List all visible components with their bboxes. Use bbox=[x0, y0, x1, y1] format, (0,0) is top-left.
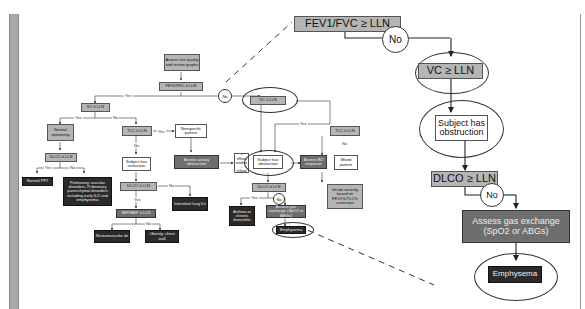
zoom-node-obstruction: Subject has obstruction bbox=[435, 115, 488, 141]
node-gas-exchange-small: Assess gas exchange (SpO2 or ABGs) bbox=[266, 205, 306, 218]
node-assess-bd: Assess BD response bbox=[300, 155, 327, 169]
label-yes-3: Yes bbox=[44, 165, 53, 170]
node-obesity: Obesity, chest wall bbox=[145, 230, 179, 243]
label-yes-2: Yes bbox=[74, 115, 83, 120]
node-dlco-obstruction: DLCO ≥ LLN bbox=[252, 183, 286, 192]
zoom-node-no-1: No bbox=[382, 26, 409, 53]
node-neuromuscular: Neuromuscular dz bbox=[94, 230, 130, 243]
zoom-node-vc: VC ≥ LLN bbox=[418, 63, 483, 79]
node-no-1: No bbox=[218, 89, 232, 103]
zoom-node-emphysema: Emphysema bbox=[488, 266, 542, 283]
label-no-6: No bbox=[145, 221, 152, 226]
node-normal-pft: Normal PFT bbox=[22, 177, 53, 186]
label-yes-7: Yes bbox=[250, 195, 259, 200]
label-yes-4: Yes bbox=[157, 129, 166, 134]
node-dlco-left: DLCO ≥ LLN bbox=[45, 153, 77, 162]
node-tlc-right: TLC ≥ LLN bbox=[330, 126, 360, 136]
node-dlco-restriction: DLCO ≥ LLN bbox=[120, 182, 157, 191]
node-tlc-left: TLC ≥ LLN bbox=[122, 126, 152, 136]
label-no-2: No bbox=[112, 115, 119, 120]
node-vc-right: VC ≥ LLN bbox=[250, 96, 286, 105]
node-no-8: No bbox=[273, 193, 285, 205]
label-no-7: No bbox=[341, 141, 348, 146]
node-vc-left: VC ≥ LLN bbox=[81, 103, 110, 112]
node-normal-spirometry: Normal spirometry bbox=[47, 124, 74, 141]
zoom-gas-line2: (SpO2 or ABGs) bbox=[483, 227, 548, 236]
label-yes-1: Yes bbox=[124, 93, 133, 98]
label-no-5: No bbox=[168, 183, 175, 188]
node-grade-severity: Grade severity based on FEV1%/TLC% corre… bbox=[327, 184, 363, 209]
zoom-node-no-2: No bbox=[480, 183, 504, 207]
zoom-node-gas-exchange: Assess gas exchange (SpO2 or ABGs) bbox=[462, 210, 570, 243]
node-interstitial: Interstitial lung Dz bbox=[172, 197, 208, 211]
node-nonspecific: Nonspecific pattern bbox=[175, 124, 207, 138]
node-mixed: Mixed pattern bbox=[334, 155, 358, 170]
node-obstruction: Subject has obstruction bbox=[253, 155, 283, 169]
label-yes-5: Yes bbox=[133, 197, 142, 202]
label-yes-6: Yes bbox=[299, 121, 308, 126]
node-pulmonary-disorders: Pulmonary vascular disorders, Pulmonary … bbox=[63, 177, 112, 206]
node-mip-mep: MIP/MEP ≥ LLN bbox=[116, 209, 156, 218]
node-asthma: Asthma or chronic bronchitis bbox=[229, 206, 255, 226]
node-emphysema-small: Emphysema bbox=[276, 226, 306, 234]
label-no-3: No bbox=[69, 165, 76, 170]
label-no-4: No bbox=[133, 143, 140, 148]
node-fev1fvc: FEV1/FVC ≥ LLN bbox=[159, 82, 203, 91]
node-assess-airway: Assess airway obstruction bbox=[174, 155, 219, 169]
node-restriction: Subject has restriction bbox=[122, 157, 151, 171]
node-assess-test: Assess test quality and review graphs bbox=[164, 54, 200, 71]
